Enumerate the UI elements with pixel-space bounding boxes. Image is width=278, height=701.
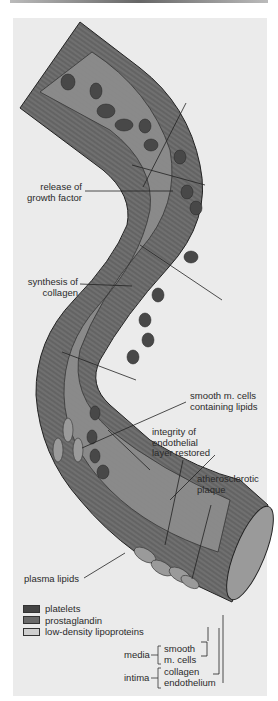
label-line: atherosclerotic [197,474,259,485]
legend-item-platelets: platelets [23,603,144,615]
label-plasma-lipids: plasma lipids [24,574,79,585]
label-media-smooth-m-cells: smooth m. cells [164,644,196,665]
label-line: endothelium [164,678,216,689]
ldl-swatch-icon [23,628,40,636]
prostaglandin-swatch-icon [23,616,40,624]
label-line: plaque [197,485,259,496]
label-line: m. cells [164,655,196,666]
legend: platelets prostaglandin low-density lipo… [23,603,144,638]
label-atherosclerotic-plaque: atherosclerotic plaque [197,474,259,495]
label-smooth-m-cells-containing-lipids: smooth m. cells containing lipids [190,391,258,412]
legend-label: platelets [45,603,80,614]
label-line: release of [20,182,82,193]
label-release-of-growth-factor: release of growth factor [20,182,82,203]
label-synthesis-of-collagen: synthesis of collagen [20,277,78,298]
label-line: collagen [164,667,216,678]
label-line: containing lipids [190,402,258,413]
legend-label: prostaglandin [45,615,102,626]
label-media: media [124,650,150,661]
platelets-swatch-icon [23,605,40,613]
label-line: collagen [20,288,78,299]
label-line: smooth [164,644,196,655]
label-intima-layers: collagen endothelium [164,667,216,688]
label-line: smooth m. cells [190,391,258,402]
label-line: layer restored [152,448,210,459]
artery-illustration [0,0,278,701]
legend-item-prostaglandin: prostaglandin [23,615,144,627]
label-line: growth factor [20,193,82,204]
label-integrity-endothelial-layer: integrity of endothelial layer restored [152,427,210,459]
label-line: integrity of [152,427,210,438]
label-line: synthesis of [20,277,78,288]
legend-item-ldl: low-density lipoproteins [23,626,144,638]
label-intima: intima [124,673,149,684]
layer-brackets [151,646,161,688]
legend-label: low-density lipoproteins [45,626,144,637]
